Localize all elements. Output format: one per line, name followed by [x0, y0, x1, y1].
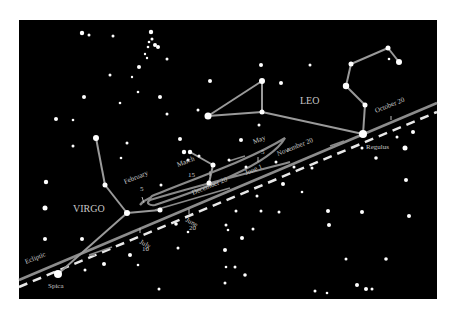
- constellation-label-leo: LEO: [300, 95, 319, 106]
- date-label-may-day: 5: [261, 148, 265, 156]
- date-label-march-day: 15: [188, 171, 196, 179]
- star-label-regulus: Regulus: [366, 143, 389, 151]
- date-label-july-day: 10: [142, 245, 150, 253]
- star-label-spica: Spica: [48, 282, 64, 290]
- star-chart: VIRGO LEO Spica Regulus Ecliptic Februar…: [0, 0, 451, 314]
- date-label-june20-day: 20: [189, 224, 197, 232]
- constellation-label-virgo: VIRGO: [73, 203, 105, 214]
- date-label-february-day: 5: [140, 185, 144, 193]
